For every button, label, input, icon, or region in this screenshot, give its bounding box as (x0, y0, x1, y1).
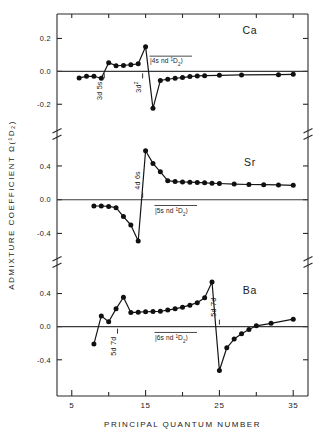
annotation-ca-1: 3d2 (133, 81, 143, 92)
data-point (143, 309, 148, 314)
state-label-text-ca: |4s nd 1D2⟩ (150, 57, 183, 67)
data-point (261, 182, 266, 187)
data-point (99, 76, 104, 81)
data-point (217, 368, 222, 373)
data-point (158, 78, 163, 83)
state-label-text-ba: |6s nd 1D2⟩ (155, 333, 188, 343)
y-tick-label-ba-2: -0.4 (37, 356, 51, 365)
element-label-ba: Ba (243, 284, 257, 296)
data-point (202, 295, 207, 300)
data-point (99, 204, 104, 209)
y-tick-label-ba-1: 0.0 (40, 322, 51, 331)
data-point (121, 214, 126, 219)
data-point (246, 327, 251, 332)
x-tick-label-25: 25 (214, 401, 224, 410)
data-point (291, 183, 296, 188)
data-points-sr (91, 148, 295, 243)
data-point (232, 337, 237, 342)
panel-ca: 0.20.0-0.2Ca|4s nd 1D2⟩3d 5s3d2 (37, 24, 308, 111)
panel-ba: 0.40.0-0.4Ba|6s nd 1D2⟩5d 7d5d 7d (37, 279, 308, 373)
x-tick-label-15: 15 (141, 401, 151, 410)
element-label-ca: Ca (242, 24, 257, 36)
data-point (136, 310, 141, 315)
data-point (121, 63, 126, 68)
figure-root: 5152535PRINCIPAL QUANTUM NUMBERADMIXTURE… (0, 0, 319, 429)
data-point (276, 72, 281, 77)
state-label-sr: |5s nd 1D2⟩ (155, 205, 198, 216)
data-point (128, 62, 133, 67)
data-point (202, 73, 207, 78)
y-axis-title-group: ADMIXTURE COEFFICIENT Ω(¹D₂) (7, 120, 16, 290)
data-point (84, 74, 89, 79)
data-point (106, 60, 111, 65)
data-point (77, 75, 82, 80)
y-tick-label-sr-0: 0.4 (40, 162, 51, 171)
data-point (291, 317, 296, 322)
data-point (165, 308, 170, 313)
annotations-sr: 4d 6s (133, 171, 143, 198)
top-axis-ticks (72, 14, 293, 18)
data-point (99, 313, 104, 318)
data-point (195, 73, 200, 78)
data-point (165, 178, 170, 183)
data-point (180, 75, 185, 80)
x-tick-label-5: 5 (69, 401, 74, 410)
data-point (136, 61, 141, 66)
data-point (202, 180, 207, 185)
data-point (224, 345, 229, 350)
y-axis-title: ADMIXTURE COEFFICIENT Ω(¹D₂) (7, 120, 16, 290)
data-point (136, 239, 141, 244)
y-tick-label-ba-0: 0.4 (40, 289, 51, 298)
data-point (269, 321, 274, 326)
data-point (276, 182, 281, 187)
data-point (232, 182, 237, 187)
data-point (210, 279, 215, 284)
y-tick-label-ca-0: 0.2 (40, 34, 51, 43)
data-point (128, 223, 133, 228)
data-point (239, 331, 244, 336)
x-axis-title: PRINCIPAL QUANTUM NUMBER (104, 420, 261, 429)
data-point (158, 309, 163, 314)
annotation-ca-0: 3d 5s (95, 81, 104, 100)
data-point (114, 63, 119, 68)
annotation-sr-0: 4d 6s (133, 171, 142, 190)
data-point (114, 306, 119, 311)
state-label-text-sr: |5s nd 1D2⟩ (155, 206, 188, 216)
y-tick-label-ca-2: -0.2 (37, 100, 51, 109)
data-point (239, 72, 244, 77)
data-point (150, 106, 155, 111)
data-point (210, 181, 215, 186)
data-point (91, 204, 96, 209)
data-point (291, 72, 296, 77)
panel-sr: 0.40.0-0.4Sr|5s nd 1D2⟩4d 6s (37, 148, 308, 243)
data-point (165, 77, 170, 82)
data-point (217, 181, 222, 186)
data-point (217, 73, 222, 78)
data-point (187, 180, 192, 185)
data-point (187, 74, 192, 79)
data-point (173, 179, 178, 184)
data-point (180, 305, 185, 310)
data-point (106, 319, 111, 324)
data-point (180, 179, 185, 184)
element-label-sr: Sr (244, 156, 256, 168)
x-tick-label-35: 35 (288, 401, 298, 410)
data-point (254, 323, 259, 328)
data-point (121, 295, 126, 300)
data-point (195, 180, 200, 185)
state-label-ba: |6s nd 1D2⟩ (155, 332, 198, 343)
data-point (150, 161, 155, 166)
annotation-ba-0: 5d 7d (109, 337, 118, 356)
data-point (114, 205, 119, 210)
data-point (173, 76, 178, 81)
data-point (143, 44, 148, 49)
state-label-ca: |4s nd 1D2⟩ (150, 56, 193, 67)
data-point (150, 309, 155, 314)
data-point (187, 303, 192, 308)
data-point (106, 204, 111, 209)
data-point (246, 182, 251, 187)
admixture-coefficient-figure: 5152535PRINCIPAL QUANTUM NUMBERADMIXTURE… (0, 0, 319, 429)
annotation-ba-1: 5d 7d (209, 298, 218, 317)
data-point (143, 148, 148, 153)
y-tick-label-ca-1: 0.0 (40, 67, 51, 76)
